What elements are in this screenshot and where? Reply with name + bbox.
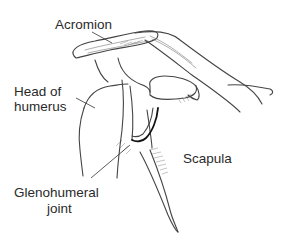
humeral-head-drawing: [79, 84, 128, 176]
scapula-drawing: [95, 58, 178, 232]
label-head-of-humerus-line1: Head of: [14, 84, 61, 99]
shoulder-anatomy-illustration: [0, 0, 283, 251]
label-glenohumeral-line1: Glenohumeral: [14, 185, 99, 200]
label-glenohumeral-line2: joint: [47, 201, 72, 216]
label-acromion: Acromion: [55, 17, 112, 32]
coracoid-drawing: [150, 76, 199, 103]
glenoid-drawing: [132, 108, 158, 141]
label-scapula: Scapula: [183, 151, 232, 166]
glenohumeral-leader-line: [91, 145, 130, 178]
clavicle-drawing: [135, 31, 273, 112]
humerus-leader-line: [76, 98, 95, 108]
acromion-drawing: [73, 31, 158, 58]
label-head-of-humerus-line2: humerus: [14, 99, 67, 114]
